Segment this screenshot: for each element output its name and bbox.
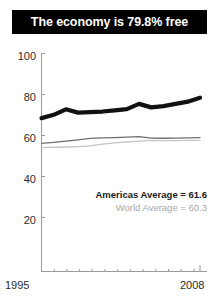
y-tick-marks — [42, 54, 46, 218]
legend-item-americas-average: Americas Average = 61.6 — [82, 188, 207, 201]
legend-item-world-average: World Average = 60.3 — [82, 201, 207, 214]
economic-freedom-chart: The economy is 79.8% free 100 80 60 40 2… — [0, 0, 217, 302]
x-tick-marks — [42, 265, 201, 272]
legend: Americas Average = 61.6 World Average = … — [82, 188, 207, 214]
series-line-country-score — [42, 98, 201, 118]
plot-area — [0, 0, 217, 302]
